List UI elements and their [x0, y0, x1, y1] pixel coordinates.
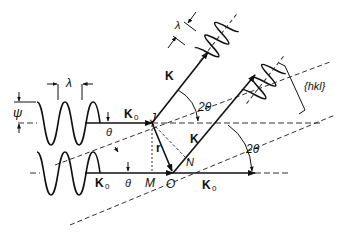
- theta-label-lower: θ: [125, 177, 131, 189]
- lambda-dimension-right: [168, 12, 196, 48]
- point-m-label: M: [145, 176, 155, 190]
- k0-sub-upper: 0: [134, 113, 139, 122]
- k0-sub-right: 0: [212, 184, 217, 193]
- diagram-canvas: {hkl} λ: [0, 0, 341, 237]
- k0-label-upper: K: [124, 107, 133, 121]
- k0-label-lower: K: [95, 176, 104, 190]
- two-theta-label-upper: 2θ: [197, 100, 212, 114]
- two-theta-arc-upper: [178, 90, 198, 121]
- k0-label-right: K: [202, 178, 211, 192]
- theta-label-upper: θ: [106, 126, 112, 138]
- diffracted-wave-upper: [190, 7, 246, 69]
- point-o-label: O: [166, 177, 175, 191]
- diffracted-wave-lower: [237, 49, 293, 111]
- k-label-upper: K: [165, 69, 174, 83]
- psi-label: ψ: [13, 105, 23, 120]
- k0-sub-lower: 0: [105, 182, 110, 191]
- lambda-label-left: λ: [65, 76, 72, 90]
- r-vector: [152, 123, 172, 171]
- r-vector-label: r: [156, 141, 161, 155]
- point-n-label: N: [186, 156, 194, 168]
- lambda-label-right: λ: [174, 19, 180, 31]
- planes-bracket: [279, 63, 305, 114]
- k-label-lower: K: [190, 132, 199, 146]
- theta-arrow-upper-plane: [115, 147, 118, 152]
- bragg-diagram: {hkl} λ: [0, 0, 341, 237]
- two-theta-label-lower: 2θ: [245, 142, 260, 156]
- point-j-label: J: [149, 111, 157, 125]
- planes-label: {hkl}: [304, 80, 326, 92]
